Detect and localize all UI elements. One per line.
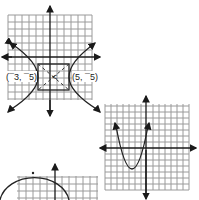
- hyperbola-right-bottom-arrow: [96, 108, 100, 112]
- center-mark: <: [52, 72, 57, 82]
- right-vertex-label: (5, ¯5): [72, 72, 98, 82]
- semicircle-top-point: [32, 172, 34, 174]
- parabola-graph: [100, 96, 196, 199]
- semicircle-graph: [0, 164, 98, 200]
- semicircle-grid: [17, 176, 98, 200]
- left-vertex-label: (¯3, ¯5): [6, 72, 37, 82]
- parabola-grid: [105, 104, 189, 190]
- semicircle-curve: [0, 178, 69, 200]
- hyperbola-left-arrow: [8, 110, 10, 112]
- figure-canvas: (¯3, ¯5) (5, ¯5) <: [0, 0, 199, 200]
- hyperbola-graph: (¯3, ¯5) (5, ¯5) <: [2, 6, 100, 116]
